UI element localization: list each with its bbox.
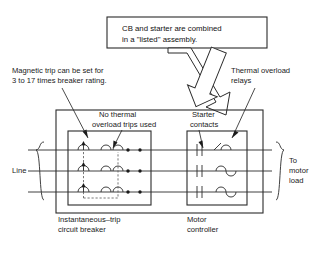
controller-caption-line-1: Motor: [187, 215, 207, 224]
magnetic-trip-line-2: 3 to 17 times breaker rating.: [12, 76, 107, 85]
motor-load-terminal: To motor load: [276, 142, 309, 200]
overload-relay-hump-2: [216, 166, 226, 171]
starter-contacts-line-1: Starter: [192, 110, 215, 119]
motor-load-line-3: load: [289, 176, 303, 185]
breaker-caption-line-1: Instantaneous–trip: [58, 215, 120, 224]
circuit-diagram: CB and starter are combined in a "listed…: [0, 0, 320, 257]
annotation-starter-contacts: Starter contacts: [190, 110, 218, 148]
no-thermal-line-1: No thermal: [99, 110, 136, 119]
annotation-thermal-overload-relays: Thermal overload relays: [231, 66, 290, 138]
magnetic-trip-line-1: Magnetic trip can be set for: [12, 66, 104, 75]
motor-load-line-2: motor: [289, 166, 309, 175]
breaker-terminal-dot-1b: [138, 148, 141, 151]
breaker-contact-hump-1a: [101, 145, 111, 150]
magnetic-trip-arrow-1: [81, 141, 85, 145]
controller-caption-line-2: controller: [187, 225, 219, 234]
controller-pole-1: [197, 143, 231, 156]
breaker-contact-hump-3a: [101, 187, 111, 192]
breaker-contact-hump-2a: [101, 166, 111, 171]
overload-relay-lead-1: [214, 143, 221, 150]
breaker-terminal-dot-2a: [126, 169, 129, 172]
motor-load-line-1: To: [289, 156, 297, 165]
motor-load-brace: [276, 142, 284, 200]
callout-line-1: CB and starter are combined: [122, 24, 222, 33]
motor-controller-block: [187, 131, 247, 205]
caption-circuit-breaker: Instantaneous–trip circuit breaker: [58, 215, 120, 234]
overload-relay-dip-3: [226, 192, 236, 197]
diagram-root: CB and starter are combined in a "listed…: [0, 0, 320, 257]
breaker-terminal-dot-3b: [138, 190, 141, 193]
circuit-breaker-block: [68, 131, 151, 205]
starter-contacts-line-2: contacts: [190, 120, 218, 129]
callout-box: CB and starter are combined in a "listed…: [107, 17, 267, 48]
callout-line-2: in a "listed" assembly.: [122, 35, 197, 44]
no-thermal-line-2: overload trips used: [92, 120, 156, 129]
overload-relay-hump-1: [221, 145, 231, 150]
thermal-relays-line-1: Thermal overload: [231, 66, 290, 75]
magnetic-trip-arrow-2: [81, 162, 85, 166]
thermal-relays-line-2: relays: [231, 76, 251, 85]
annotation-no-thermal-trips: No thermal overload trips used: [92, 110, 156, 148]
overload-relay-hump-3: [216, 187, 226, 192]
overload-relay-dip-2: [226, 171, 236, 176]
phase-wires: [28, 150, 272, 192]
caption-motor-controller: Motor controller: [187, 215, 219, 234]
breaker-terminal-dot-3a: [126, 190, 129, 193]
thermal-relays-leader-arrowhead: [232, 131, 239, 139]
breaker-terminal-dot-2b: [138, 169, 141, 172]
breaker-caption-line-2: circuit breaker: [58, 225, 106, 234]
breaker-terminal-dot-1a: [126, 148, 129, 151]
line-label: Line: [12, 166, 26, 175]
assembly-enclosure: [56, 110, 263, 213]
magnetic-trip-arrow-3: [81, 183, 85, 187]
